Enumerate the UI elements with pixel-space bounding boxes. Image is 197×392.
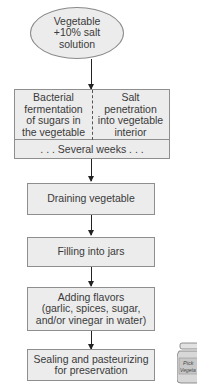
cell-line: of sugars in	[22, 115, 85, 127]
step-label: and/or vinegar in water)	[36, 315, 146, 327]
step-sealing: Sealing and pasteurizing for preservatio…	[27, 349, 155, 381]
step-label: Filling into jars	[57, 246, 124, 258]
cell-line: into vegetable	[98, 115, 163, 127]
duration-label: . . . Several weeks . . .	[15, 140, 169, 158]
step-label: Draining vegetable	[47, 193, 135, 205]
step-adding-flavors: Adding flavors (garlic, spices, sugar, a…	[27, 287, 155, 331]
arrow-down-icon	[91, 59, 92, 89]
cell-line: interior	[98, 127, 163, 139]
cell-line: Salt	[98, 92, 163, 104]
arrow-down-icon	[91, 267, 92, 286]
step-filling: Filling into jars	[27, 237, 155, 267]
salt-penetration-cell: Salt penetration into vegetable interior	[92, 92, 169, 138]
arrow-down-icon	[91, 159, 92, 181]
fermentation-box: Bacterial fermentation of sugars in the …	[14, 89, 170, 159]
start-node-line: solution	[54, 39, 101, 51]
cell-line: the vegetable	[22, 127, 85, 139]
svg-text:Pick: Pick	[183, 360, 194, 366]
parallel-processes: Bacterial fermentation of sugars in the …	[15, 90, 169, 140]
step-draining: Draining vegetable	[27, 183, 155, 215]
arrow-down-icon	[91, 215, 92, 235]
cell-line: Bacterial	[22, 92, 85, 104]
start-node-ellipse: Vegetable +10% salt solution	[30, 7, 124, 59]
pickle-jar-icon: Pick Vegeta	[177, 342, 197, 384]
bacterial-fermentation-cell: Bacterial fermentation of sugars in the …	[15, 92, 92, 138]
svg-text:Vegeta: Vegeta	[180, 367, 196, 373]
arrow-down-icon	[91, 331, 92, 349]
step-label: for preservation	[34, 365, 149, 377]
